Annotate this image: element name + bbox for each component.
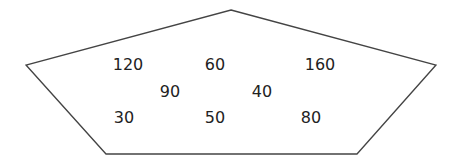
number-80: 80 xyxy=(301,110,321,126)
pentagon-outline xyxy=(26,10,436,154)
number-50: 50 xyxy=(205,110,225,126)
number-40: 40 xyxy=(252,84,272,100)
number-120: 120 xyxy=(113,57,144,73)
number-160: 160 xyxy=(305,57,336,73)
number-90: 90 xyxy=(160,84,180,100)
number-60: 60 xyxy=(205,57,225,73)
number-30: 30 xyxy=(114,110,134,126)
diagram-canvas: 120 60 160 90 40 30 50 80 xyxy=(0,0,454,161)
pentagon-shape xyxy=(0,0,454,161)
